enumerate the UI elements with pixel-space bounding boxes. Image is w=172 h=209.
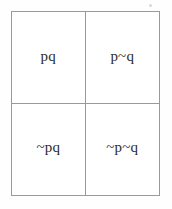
grid-cell-top-left[interactable]: pq [12, 12, 86, 104]
grid-cell-top-right[interactable]: p~q [86, 12, 160, 104]
grid-cell-bottom-left-label: ~pq [36, 140, 60, 155]
grid-cell-bottom-left[interactable]: ~pq [12, 104, 86, 196]
logic-grid: pq p~q ~pq ~p~q [11, 11, 160, 196]
grid-cell-bottom-right[interactable]: ~p~q [86, 104, 160, 196]
grid-cell-bottom-right-label: ~p~q [106, 140, 138, 155]
grid-cell-top-left-label: pq [41, 49, 56, 64]
grid-cell-top-right-label: p~q [110, 49, 134, 64]
figure-canvas: pq p~q ~pq ~p~q [0, 0, 172, 209]
scan-speck-artifact [149, 4, 152, 7]
